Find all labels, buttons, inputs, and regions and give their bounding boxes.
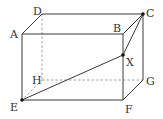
label-X: X (126, 56, 134, 69)
point-E (20, 98, 24, 102)
segment-XC (123, 14, 143, 55)
hidden-edges (22, 14, 143, 100)
label-A: A (9, 28, 19, 41)
label-B: B (113, 22, 121, 35)
edge-BC (123, 14, 143, 34)
visible-edges (22, 14, 143, 100)
label-E: E (10, 101, 18, 114)
point-X (121, 53, 125, 57)
label-G: G (146, 75, 155, 88)
label-H: H (32, 74, 42, 87)
label-F: F (125, 103, 133, 116)
edge-FG (123, 80, 143, 100)
label-D: D (33, 5, 42, 18)
point-C (141, 12, 145, 16)
vertex-labels: D A B C X H G E F (9, 5, 155, 116)
prism-diagram: D A B C X H G E F (0, 0, 163, 119)
label-C: C (146, 7, 154, 20)
